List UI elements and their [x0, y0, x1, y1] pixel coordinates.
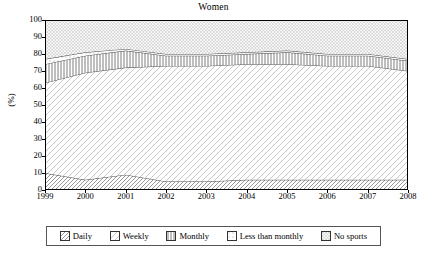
- legend-label: Daily: [73, 231, 92, 241]
- x-tick-mark: [327, 190, 328, 193]
- x-tick-label: 2006: [319, 192, 336, 201]
- legend-label: Monthly: [179, 231, 209, 241]
- x-tick-mark: [206, 190, 207, 193]
- x-tick-label: 2007: [359, 192, 376, 201]
- legend-item[interactable]: Less than monthly: [227, 231, 304, 241]
- x-tick-mark: [45, 190, 46, 193]
- legend-item[interactable]: No sports: [321, 231, 367, 241]
- legend-swatch-dense-dots-icon: [321, 231, 331, 241]
- legend-label: Less than monthly: [240, 231, 304, 241]
- legend-item[interactable]: Monthly: [166, 231, 209, 241]
- x-tick-mark: [287, 190, 288, 193]
- x-tick-label: 2004: [238, 192, 255, 201]
- x-tick-mark: [126, 190, 127, 193]
- x-tick-label: 1999: [37, 192, 54, 201]
- legend-item[interactable]: Daily: [60, 231, 92, 241]
- x-tick-label: 2003: [198, 192, 215, 201]
- x-tick-mark: [85, 190, 86, 193]
- x-tick-mark: [166, 190, 167, 193]
- x-tick-mark: [408, 190, 409, 193]
- chart-figure: Women (%) 0102030405060708090100 1999200…: [0, 0, 427, 266]
- x-tick-label: 2001: [117, 192, 134, 201]
- x-tick-label: 2000: [77, 192, 94, 201]
- legend-swatch-light-diagonal-hatch-icon: [110, 231, 120, 241]
- legend-swatch-fine-dots-icon: [227, 231, 237, 241]
- x-tick-label: 2005: [279, 192, 296, 201]
- legend-label: No sports: [334, 231, 367, 241]
- x-tick-mark: [368, 190, 369, 193]
- legend-label: Weekly: [123, 231, 149, 241]
- stacked-area-plot: [45, 20, 408, 190]
- area-series: [45, 64, 408, 181]
- legend-swatch-vertical-lines-icon: [166, 231, 176, 241]
- plot-area: [45, 20, 408, 190]
- legend-swatch-diagonal-hatch-icon: [60, 231, 70, 241]
- legend-item[interactable]: Weekly: [110, 231, 149, 241]
- x-tick-mark: [247, 190, 248, 193]
- chart-legend: DailyWeeklyMonthlyLess than monthlyNo sp…: [46, 226, 381, 246]
- x-tick-label: 2008: [400, 192, 417, 201]
- x-tick-label: 2002: [158, 192, 175, 201]
